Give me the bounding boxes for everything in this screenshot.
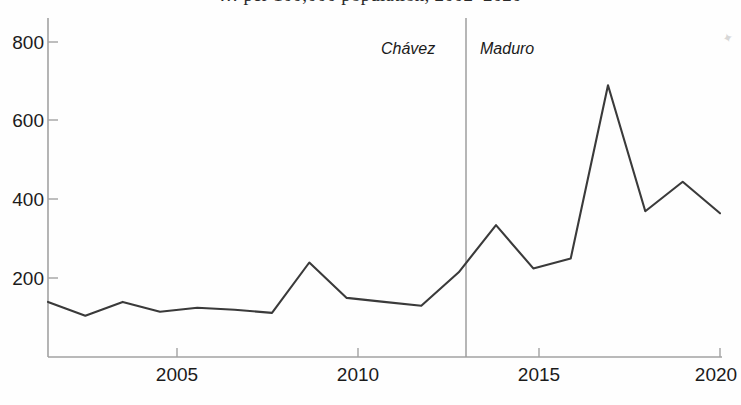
chart-plot-area: [0, 0, 741, 405]
x-axis-label-2005: 2005: [142, 364, 212, 386]
y-axis-label-800: 800: [0, 32, 44, 54]
maduro-era-label: Maduro: [480, 40, 534, 58]
data-series-line: [48, 85, 720, 315]
y-axis-label-200: 200: [0, 268, 44, 290]
x-axis-label-2015: 2015: [504, 364, 574, 386]
y-axis-label-400: 400: [0, 189, 44, 211]
chavez-era-label: Chávez: [381, 40, 435, 58]
y-axis-label-600: 600: [0, 110, 44, 132]
x-axis-label-2020: 2020: [681, 364, 741, 386]
x-axis-label-2010: 2010: [323, 364, 393, 386]
chart-container: … per 100,000 population, 2002–2020 800 …: [0, 0, 741, 405]
